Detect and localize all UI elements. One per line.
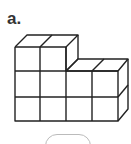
cube-stack-figure <box>0 0 131 144</box>
answer-input-box[interactable] <box>45 134 91 144</box>
